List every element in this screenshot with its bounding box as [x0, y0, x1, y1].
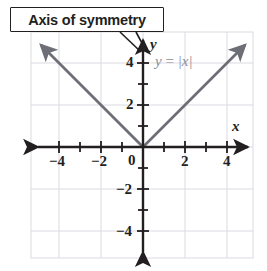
equation-operator: = [165, 53, 173, 69]
x-tick-label-neg2: −2 [91, 153, 107, 170]
x-tick-label-4: 4 [223, 153, 231, 170]
x-tick-label-neg4: −4 [49, 153, 65, 170]
origin-label: 0 [128, 152, 136, 169]
absolute-value-graph-figure: Axis of symmetry y x −4 −2 0 2 4 4 2 −2 … [0, 0, 267, 271]
axis-of-symmetry-callout: Axis of symmetry [10, 7, 164, 32]
axis-of-symmetry-label: Axis of symmetry [28, 12, 146, 28]
y-axis-label: y [150, 36, 157, 53]
equation-lhs: y [155, 53, 162, 69]
y-tick-label-2: 2 [126, 96, 134, 113]
equation-label: y = |x| [155, 53, 193, 70]
equation-rhs: |x| [178, 53, 193, 69]
y-tick-label-4: 4 [126, 54, 134, 71]
plot-area [0, 0, 267, 271]
x-axis-label: x [232, 118, 240, 135]
y-tick-label-neg2: −2 [116, 181, 132, 198]
y-tick-label-neg4: −4 [116, 223, 132, 240]
x-tick-label-2: 2 [181, 153, 189, 170]
